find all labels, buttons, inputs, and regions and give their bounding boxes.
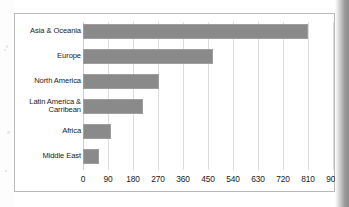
plot-area: Asia & Oceania Europe North America Lati…	[15, 14, 336, 193]
gridline-180	[133, 22, 134, 170]
x-tick-450: 450	[195, 174, 221, 184]
page-gutter-shadow	[335, 0, 349, 207]
gridline-450	[208, 22, 209, 170]
x-tick-180: 180	[120, 174, 146, 184]
gridline-0	[83, 22, 84, 170]
category-label-asia-oceania: Asia & Oceania	[7, 27, 81, 36]
gridline-90	[108, 22, 109, 170]
gridline-360	[183, 22, 184, 170]
x-tick-270: 270	[145, 174, 171, 184]
x-tick-630: 630	[245, 174, 271, 184]
x-tick-810: 810	[295, 174, 321, 184]
category-axis: Asia & Oceania Europe North America Lati…	[15, 14, 81, 193]
category-label-north-america: North America	[7, 77, 81, 86]
category-label-middle-east: Middle East	[7, 152, 81, 161]
x-tick-540: 540	[220, 174, 246, 184]
chart-page: Asia & Oceania Europe North America Lati…	[0, 0, 349, 207]
bar-europe[interactable]	[83, 49, 213, 64]
gridline-900	[333, 22, 334, 170]
x-tick-360: 360	[170, 174, 196, 184]
x-tick-90: 90	[95, 174, 121, 184]
gridline-270	[158, 22, 159, 170]
bar-latin-america[interactable]	[83, 99, 143, 114]
gridline-630	[258, 22, 259, 170]
category-label-africa: Africa	[7, 127, 81, 136]
category-label-latin-america-line2: Carribean	[7, 106, 81, 114]
bar-africa[interactable]	[83, 124, 111, 139]
gridline-810	[308, 22, 309, 170]
category-label-europe: Europe	[7, 52, 81, 61]
x-tick-720: 720	[270, 174, 296, 184]
x-tick-0: 0	[70, 174, 96, 184]
bar-middle-east[interactable]	[83, 149, 99, 164]
bar-asia-oceania[interactable]	[83, 24, 308, 39]
gridline-540	[233, 22, 234, 170]
gridline-720	[283, 22, 284, 170]
bar-north-america[interactable]	[83, 74, 159, 89]
chart-frame: Asia & Oceania Europe North America Lati…	[14, 13, 335, 192]
